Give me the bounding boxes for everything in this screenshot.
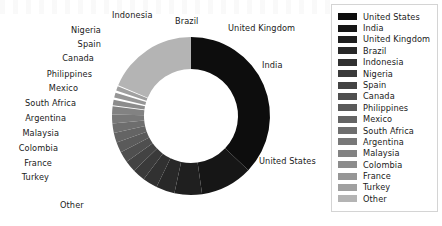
legend-item[interactable]: Spain: [338, 79, 433, 90]
legend-item[interactable]: Colombia: [338, 159, 433, 170]
chart-legend: United StatesIndiaUnited KingdomBrazilIn…: [331, 4, 438, 212]
legend-item[interactable]: South Africa: [338, 125, 433, 136]
legend-item[interactable]: Brazil: [338, 45, 433, 56]
slice-label: Colombia: [19, 144, 58, 152]
legend-color-swatch: [338, 82, 357, 89]
legend-item-label: Argentina: [363, 138, 404, 146]
slice-label: South Africa: [25, 99, 76, 107]
legend-item-label: Indonesia: [363, 58, 404, 66]
legend-color-swatch: [338, 173, 357, 180]
slice-label: Nigeria: [71, 26, 101, 34]
legend-item-label: Colombia: [363, 161, 402, 169]
legend-color-swatch: [338, 127, 357, 134]
legend-item-label: Nigeria: [363, 70, 393, 78]
slice-label: Philippines: [47, 70, 92, 78]
legend-item[interactable]: United Kingdom: [338, 34, 433, 45]
legend-item-label: Other: [363, 195, 387, 203]
legend-color-swatch: [338, 93, 357, 100]
legend-item[interactable]: United States: [338, 11, 433, 22]
legend-color-swatch: [338, 138, 357, 145]
donut-chart-area: IndonesiaBrazilUnited KingdomIndiaUnited…: [0, 0, 330, 226]
slice-label: Brazil: [175, 17, 198, 25]
slice-label: United States: [259, 157, 316, 165]
legend-color-swatch: [338, 116, 357, 123]
slice-label: United Kingdom: [228, 24, 295, 32]
slice-label: Canada: [62, 54, 94, 62]
legend-item[interactable]: Argentina: [338, 136, 433, 147]
legend-item[interactable]: Turkey: [338, 182, 433, 193]
legend-item[interactable]: Canada: [338, 91, 433, 102]
legend-item-label: Philippines: [363, 104, 408, 112]
slice-label: Argentina: [25, 114, 66, 122]
legend-item[interactable]: Mexico: [338, 114, 433, 125]
legend-item-label: Brazil: [363, 47, 386, 55]
legend-color-swatch: [338, 104, 357, 111]
legend-item[interactable]: France: [338, 170, 433, 181]
legend-color-swatch: [338, 25, 357, 32]
slice-label: Malaysia: [22, 129, 59, 137]
legend-item-label: South Africa: [363, 127, 414, 135]
legend-color-swatch: [338, 36, 357, 43]
legend-item-label: France: [363, 172, 391, 180]
legend-color-swatch: [338, 70, 357, 77]
legend-color-swatch: [338, 59, 357, 66]
legend-item-label: United States: [363, 13, 420, 21]
slice-label: France: [24, 159, 52, 167]
legend-item[interactable]: Indonesia: [338, 57, 433, 68]
donut-slice[interactable]: [191, 37, 270, 170]
slice-label: Mexico: [49, 84, 78, 92]
legend-item[interactable]: Nigeria: [338, 68, 433, 79]
slice-label: India: [262, 61, 283, 69]
chart-figure: IndonesiaBrazilUnited KingdomIndiaUnited…: [0, 0, 442, 226]
donut-slice[interactable]: [118, 37, 191, 98]
slice-label: Indonesia: [112, 11, 153, 19]
slice-label: Other: [60, 201, 84, 209]
legend-item-label: Spain: [363, 81, 386, 89]
legend-color-swatch: [338, 150, 357, 157]
legend-color-swatch: [338, 184, 357, 191]
legend-item[interactable]: Philippines: [338, 102, 433, 113]
legend-item-label: United Kingdom: [363, 35, 430, 43]
slice-label: Turkey: [22, 173, 49, 181]
legend-color-swatch: [338, 195, 357, 202]
legend-item-list: United StatesIndiaUnited KingdomBrazilIn…: [338, 11, 433, 205]
legend-item-label: India: [363, 24, 384, 32]
slice-label: Spain: [78, 40, 101, 48]
legend-item[interactable]: Other: [338, 193, 433, 204]
legend-item-label: Canada: [363, 92, 395, 100]
legend-item-label: Mexico: [363, 115, 392, 123]
legend-item-label: Turkey: [363, 183, 390, 191]
legend-item[interactable]: Malaysia: [338, 148, 433, 159]
legend-item[interactable]: India: [338, 22, 433, 33]
legend-color-swatch: [338, 47, 357, 54]
legend-color-swatch: [338, 161, 357, 168]
donut-slices: [112, 37, 270, 195]
legend-color-swatch: [338, 13, 357, 20]
legend-item-label: Malaysia: [363, 149, 400, 157]
